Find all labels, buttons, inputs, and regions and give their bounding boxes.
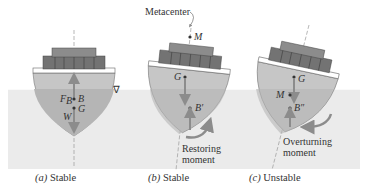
svg-text:B′: B′ bbox=[195, 102, 204, 113]
svg-text:moment: moment bbox=[182, 154, 215, 165]
svg-text:M: M bbox=[275, 89, 285, 100]
svg-text:G: G bbox=[298, 73, 305, 84]
svg-text:B″: B″ bbox=[294, 102, 305, 113]
svg-text:moment: moment bbox=[283, 147, 316, 158]
svg-text:G: G bbox=[174, 71, 181, 82]
caption-c: (c) Unstable bbox=[249, 172, 301, 184]
caption-a: (a) Stable bbox=[35, 172, 76, 184]
svg-text:M: M bbox=[193, 31, 203, 42]
svg-text:Restoring: Restoring bbox=[182, 143, 221, 154]
ship-stability-diagram: ∇ F B B G W (a) Stable Metacenter M bbox=[0, 0, 366, 195]
svg-text:B: B bbox=[66, 95, 72, 106]
svg-text:G: G bbox=[78, 103, 85, 114]
caption-b: (b) Stable bbox=[148, 172, 189, 184]
svg-text:Metacenter: Metacenter bbox=[145, 6, 191, 17]
svg-text:Overturning: Overturning bbox=[283, 136, 332, 147]
